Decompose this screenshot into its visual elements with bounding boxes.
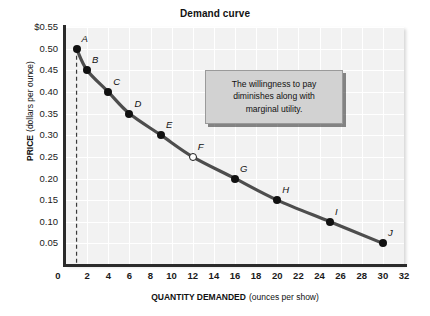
chart-title: Demand curve [0,8,430,19]
data-point-label-e: E [166,119,172,130]
x-axis-line [63,264,407,267]
willingness-to-pay-callout: The willingness to paydiminishes along w… [205,70,343,124]
data-point-label-a: A [82,33,88,44]
y-axis-line [63,25,66,267]
data-point-g [231,175,239,183]
y-axis-title-main: PRICE [25,135,35,161]
y-tick-label: 0.10 [0,216,58,227]
data-point-f [189,153,197,161]
data-point-a [73,45,81,53]
data-point-label-h: H [282,184,289,195]
x-axis-title-main: QUANTITY DEMANDED [151,292,246,302]
data-point-label-g: G [240,163,247,174]
demand-curve-line [66,27,404,265]
data-point-i [326,218,334,226]
data-point-label-f: F [198,141,204,152]
x-tick-label: 0 [46,270,70,281]
callout-line: The willingness to pay [212,78,336,90]
y-tick-label: 0.05 [0,237,58,248]
plot-area: ABCDEFGHIJ [66,27,404,265]
y-axis-title-note: (dollars per ounce) [25,61,35,132]
x-axis-title: QUANTITY DEMANDED(ounces per show) [66,292,404,302]
data-point-label-j: J [388,227,393,238]
callout-line: marginal utility. [212,103,336,115]
demand-curve-figure: Demand curve ABCDEFGHIJ $0.550.500.450.4… [0,0,430,316]
data-point-label-d: D [134,98,141,109]
data-point-d [125,110,133,118]
y-axis-title: PRICE(dollars per ounce) [25,26,35,196]
data-point-label-b: B [92,54,98,65]
x-tick-label: 32 [392,270,416,281]
data-point-label-i: I [335,206,338,217]
x-axis-title-note: (ounces per show) [249,292,319,302]
data-point-label-c: C [113,76,120,87]
callout-line: diminishes along with [212,90,336,102]
